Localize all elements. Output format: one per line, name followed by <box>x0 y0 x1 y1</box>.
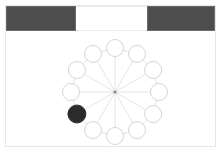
graph-node[interactable] <box>145 62 162 79</box>
graph-node-selected[interactable] <box>68 105 86 123</box>
graph-node[interactable] <box>68 62 85 79</box>
graph-node[interactable] <box>85 122 102 139</box>
graph-node[interactable] <box>107 40 124 57</box>
graph-node[interactable] <box>107 128 124 145</box>
app-canvas <box>0 0 221 153</box>
graph-hub-node[interactable] <box>113 90 116 93</box>
graph-node[interactable] <box>129 122 146 139</box>
graph-node[interactable] <box>63 84 80 101</box>
graph-node[interactable] <box>85 45 102 62</box>
wheel-graph-visualization[interactable] <box>0 0 221 153</box>
graph-node[interactable] <box>145 106 162 123</box>
graph-node[interactable] <box>129 45 146 62</box>
graph-node[interactable] <box>151 84 168 101</box>
